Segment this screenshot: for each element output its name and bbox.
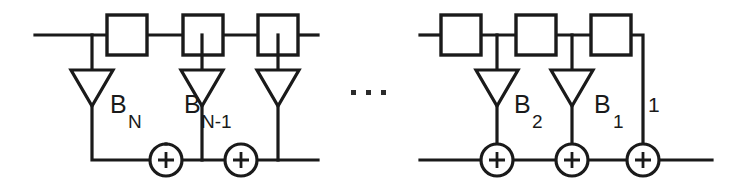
sum-node-4: [556, 144, 588, 176]
sum-node-2: [225, 144, 257, 176]
gain-triangle-bn2: [257, 70, 299, 106]
gain-triangle-bn: [71, 70, 113, 106]
label-unity-gain: 1: [648, 93, 660, 116]
ellipsis-dot-1: [351, 90, 356, 95]
label-b-n-minus-1-base: B: [184, 90, 201, 118]
filter-diagram-figure: B N B N-1: [0, 0, 746, 192]
ellipsis-dot-2: [366, 90, 371, 95]
delay-block-5: [516, 15, 556, 55]
delay-block-1: [107, 15, 147, 55]
label-b-1: B 1: [594, 90, 624, 132]
delay-block-4: [441, 15, 481, 55]
delay-block-6: [591, 15, 631, 55]
label-b-n: B N: [110, 90, 142, 132]
wire-delay6-to-sum5: [631, 35, 643, 144]
label-b-n-minus-1-sub: N-1: [201, 111, 232, 132]
label-b-1-sub: 1: [613, 111, 624, 132]
sum-node-5: [627, 144, 659, 176]
label-b-n-sub: N: [128, 111, 142, 132]
ellipsis-dot-3: [381, 90, 386, 95]
ellipsis-group: [351, 90, 386, 95]
label-b-2-base: B: [514, 90, 531, 118]
label-b-2-sub: 2: [532, 111, 543, 132]
sum-node-3: [481, 144, 513, 176]
label-b-2: B 2: [514, 90, 543, 132]
diagram-canvas: B N B N-1: [0, 0, 746, 192]
label-b-1-base: B: [594, 90, 611, 118]
sum-node-1: [150, 144, 182, 176]
label-b-n-base: B: [110, 90, 127, 118]
gain-triangle-b2: [476, 70, 518, 106]
gain-triangle-b1: [551, 70, 593, 106]
